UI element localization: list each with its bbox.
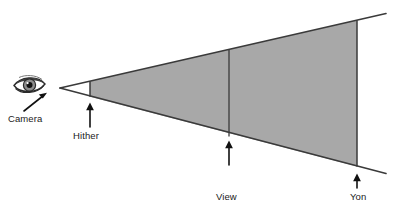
- camera-arrow-icon: [24, 93, 47, 111]
- frustum-graphic: [0, 0, 397, 217]
- frustum-shaded-region: [90, 20, 357, 166]
- hither-label: Hither: [73, 130, 99, 142]
- yon-label: Yon: [350, 191, 366, 203]
- view-plane-arrow-icon: [225, 141, 233, 166]
- view-frustum-diagram: Camera Hither View Plane Yon: [0, 0, 397, 217]
- view-plane-label: View Plane: [214, 168, 239, 217]
- hither-arrow-icon: [86, 103, 94, 128]
- yon-arrow-icon: [353, 174, 361, 189]
- camera-label: Camera: [8, 113, 42, 125]
- eye-icon: [14, 76, 45, 93]
- view-plane-label-line1: View: [214, 191, 239, 203]
